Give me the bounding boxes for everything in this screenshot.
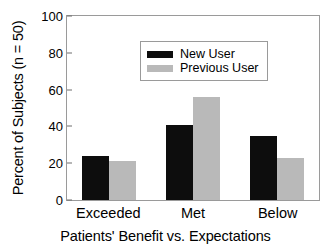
legend-swatch bbox=[147, 65, 173, 72]
bar bbox=[166, 125, 193, 200]
bar bbox=[82, 156, 109, 200]
legend-item: New User bbox=[147, 47, 259, 61]
x-axis-title: Patients' Benefit vs. Expectations bbox=[0, 228, 331, 244]
chart-legend: New UserPrevious User bbox=[140, 41, 268, 81]
legend-label: Previous User bbox=[180, 61, 259, 75]
bar bbox=[277, 158, 304, 200]
bar bbox=[109, 161, 136, 200]
legend-item: Previous User bbox=[147, 61, 259, 75]
y-tick-label: 20 bbox=[49, 156, 63, 171]
legend-label: New User bbox=[180, 47, 235, 61]
x-axis-tick-labels: ExceededMetBelow bbox=[66, 205, 320, 221]
x-tick-label: Below bbox=[235, 205, 320, 221]
bar bbox=[193, 97, 220, 200]
plot-area: 020406080100 New UserPrevious User bbox=[66, 15, 320, 201]
x-tick-label: Met bbox=[151, 205, 236, 221]
y-tick-label: 80 bbox=[49, 45, 63, 60]
bar bbox=[250, 136, 277, 200]
bar-chart-figure: Percent of Subjects (n = 50) 02040608010… bbox=[0, 0, 331, 247]
x-tick-label: Exceeded bbox=[66, 205, 151, 221]
bar-group bbox=[67, 16, 151, 200]
y-tick-label: 100 bbox=[41, 9, 63, 24]
y-tick-label: 60 bbox=[49, 82, 63, 97]
legend-swatch bbox=[147, 51, 173, 58]
y-tick-label: 40 bbox=[49, 119, 63, 134]
y-tick-label: 0 bbox=[56, 193, 63, 208]
y-axis-title: Percent of Subjects (n = 50) bbox=[10, 8, 26, 208]
